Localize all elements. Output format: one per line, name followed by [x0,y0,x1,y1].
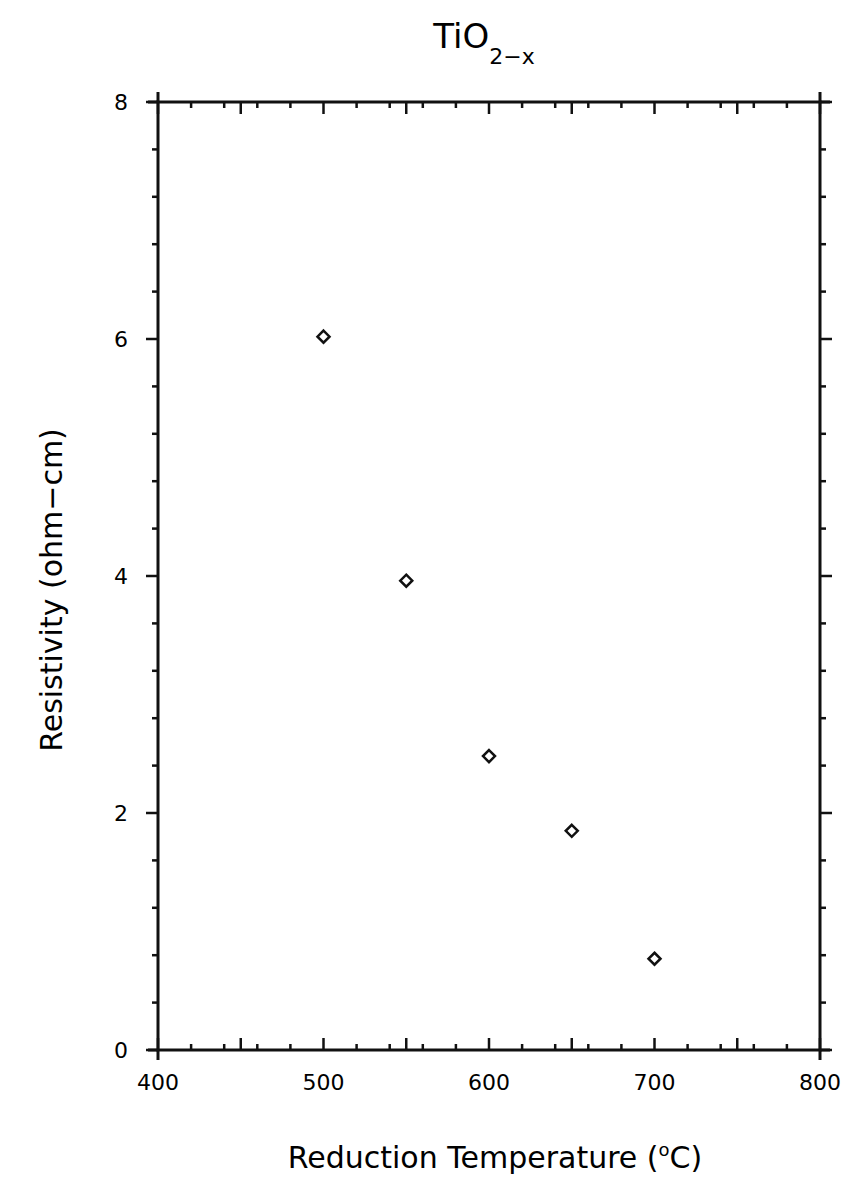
diamond-marker [566,825,578,837]
x-tick-labels: 400500600700800 [137,1070,841,1095]
diamond-marker [483,750,495,762]
diamond-marker [400,575,412,587]
y-axis-label: Resistivity (ohm−cm) [34,428,69,752]
y-tick-label: 4 [114,564,128,589]
plot-border [158,102,820,1050]
y-tick-label: 6 [114,327,128,352]
diamond-marker [649,953,661,965]
axis-ticks [146,102,832,1050]
x-tick-label: 700 [634,1070,676,1095]
x-tick-label: 800 [799,1070,841,1095]
y-tick-label: 0 [114,1038,128,1063]
data-points [318,331,661,965]
y-tick-labels: 02468 [114,90,128,1063]
x-tick-label: 600 [468,1070,510,1095]
chart-title: TiO2−x [432,16,534,69]
scatter-chart: TiO2−x 400500600700800 02468 Reduction T… [0,0,861,1187]
plot-frame [148,92,830,1060]
y-tick-label: 2 [114,801,128,826]
diamond-marker [318,331,330,343]
x-tick-label: 500 [303,1070,345,1095]
x-tick-label: 400 [137,1070,179,1095]
x-axis-label: Reduction Temperature (oC) [288,1139,702,1175]
y-tick-label: 8 [114,90,128,115]
